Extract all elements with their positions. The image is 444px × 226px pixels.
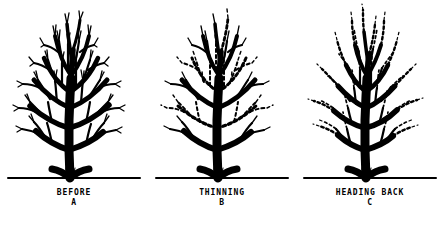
caption-letter-heading-back: C	[296, 199, 444, 207]
caption-letter-thinning: B	[148, 199, 296, 207]
limb-left-3	[34, 80, 70, 108]
caption-heading-back: HEADING BACK C	[296, 189, 444, 208]
caption-thinning: THINNING B	[148, 189, 296, 208]
panel-before: BEFORE A	[0, 0, 148, 226]
caption-title-heading-back: HEADING BACK	[296, 189, 444, 197]
panel-thinning: THINNING B	[148, 0, 296, 226]
caption-before: BEFORE A	[0, 189, 148, 208]
pruning-figure: BEFORE A	[0, 0, 444, 226]
caption-title-thinning: THINNING	[148, 189, 296, 197]
caption-title-before: BEFORE	[0, 189, 148, 197]
panel-heading-back: HEADING BACK C	[296, 0, 444, 226]
caption-letter-before: A	[0, 199, 148, 207]
